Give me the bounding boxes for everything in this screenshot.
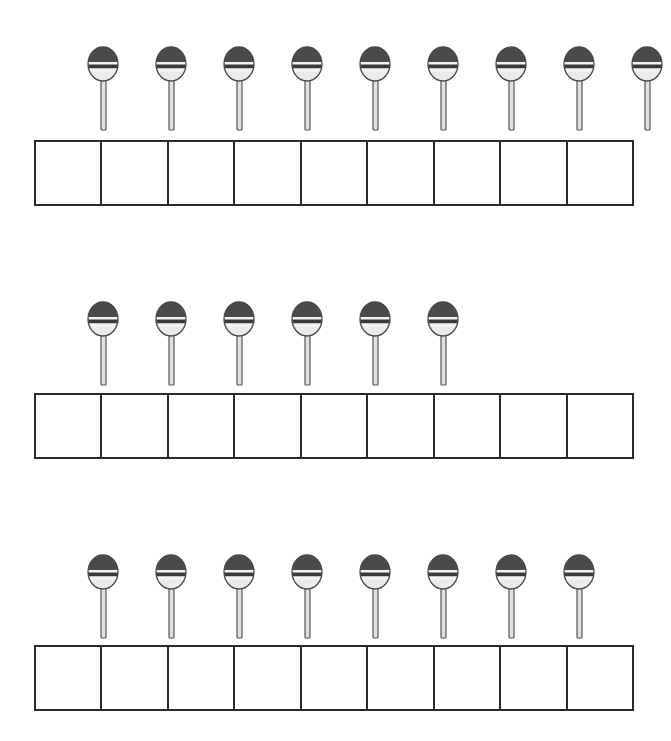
answer-grid — [34, 393, 634, 459]
lollipop-icon — [630, 40, 664, 132]
lollipop-icon — [154, 295, 188, 387]
lollipop-row — [38, 548, 671, 640]
answer-grid-cell[interactable] — [233, 393, 299, 459]
lollipop-icon — [86, 295, 120, 387]
answer-grid-cell[interactable] — [233, 645, 299, 711]
lollipop-icon — [222, 548, 256, 640]
answer-grid-cell[interactable] — [566, 645, 634, 711]
lollipop-icon — [222, 40, 256, 132]
lollipop-icon — [290, 548, 324, 640]
lollipop-icon — [426, 40, 460, 132]
answer-grid-cell[interactable] — [566, 140, 634, 206]
lollipop-icon — [358, 548, 392, 640]
lollipop-icon — [562, 40, 596, 132]
answer-grid-cell[interactable] — [300, 393, 366, 459]
lollipop-icon — [86, 548, 120, 640]
lollipop-icon — [426, 295, 460, 387]
answer-grid-cell[interactable] — [34, 645, 100, 711]
lollipop-icon — [86, 40, 120, 132]
answer-grid-cell[interactable] — [100, 393, 166, 459]
answer-grid-cell[interactable] — [433, 645, 499, 711]
answer-grid-cell[interactable] — [233, 140, 299, 206]
answer-grid-cell[interactable] — [499, 645, 565, 711]
lollipop-icon — [358, 40, 392, 132]
answer-grid — [34, 140, 634, 206]
answer-grid-cell[interactable] — [566, 393, 634, 459]
answer-grid-cell[interactable] — [300, 645, 366, 711]
lollipop-row — [38, 295, 671, 387]
lollipop-icon — [290, 40, 324, 132]
answer-grid-cell[interactable] — [499, 140, 565, 206]
answer-grid-cell[interactable] — [34, 393, 100, 459]
answer-grid-cell[interactable] — [167, 393, 233, 459]
answer-grid-cell[interactable] — [366, 645, 432, 711]
answer-grid-cell[interactable] — [366, 140, 432, 206]
answer-grid-cell[interactable] — [167, 140, 233, 206]
answer-grid-cell[interactable] — [300, 140, 366, 206]
lollipop-icon — [494, 40, 528, 132]
lollipop-row — [38, 40, 671, 132]
answer-grid-cell[interactable] — [433, 393, 499, 459]
lollipop-icon — [358, 295, 392, 387]
answer-grid — [34, 645, 634, 711]
lollipop-icon — [290, 295, 324, 387]
lollipop-icon — [562, 548, 596, 640]
lollipop-icon — [154, 40, 188, 132]
lollipop-icon — [222, 295, 256, 387]
answer-grid-cell[interactable] — [34, 140, 100, 206]
answer-grid-cell[interactable] — [167, 645, 233, 711]
answer-grid-cell[interactable] — [100, 140, 166, 206]
lollipop-icon — [426, 548, 460, 640]
answer-grid-cell[interactable] — [366, 393, 432, 459]
answer-grid-cell[interactable] — [433, 140, 499, 206]
answer-grid-cell[interactable] — [499, 393, 565, 459]
worksheet-page — [0, 0, 671, 741]
lollipop-icon — [494, 548, 528, 640]
answer-grid-cell[interactable] — [100, 645, 166, 711]
lollipop-icon — [154, 548, 188, 640]
